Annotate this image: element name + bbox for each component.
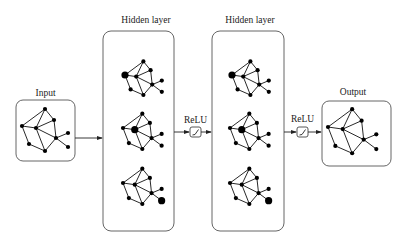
- graph-node: [228, 181, 232, 185]
- output-box: [322, 101, 391, 166]
- graph-node: [267, 79, 271, 83]
- graph-node: [140, 112, 144, 116]
- output-label: Output: [340, 87, 367, 97]
- graph-node: [54, 136, 58, 140]
- graph-node: [43, 149, 47, 153]
- graph-node: [256, 191, 260, 195]
- graph-node: [256, 136, 260, 140]
- graph-node: [27, 142, 31, 146]
- graph-node: [236, 87, 240, 91]
- graph-node: [326, 125, 330, 129]
- graph-node: [247, 112, 251, 116]
- graph-node: [148, 176, 152, 180]
- gnn-diagram: Input Hidden layer ReLU Hidden layer ReL…: [0, 0, 394, 242]
- graph-node: [127, 196, 131, 200]
- graph-node: [248, 59, 252, 63]
- graph-node: [52, 118, 56, 122]
- graph-node: [121, 181, 125, 185]
- graph-node: [149, 68, 153, 72]
- relu2-label: ReLU: [291, 114, 314, 124]
- graph-node: [257, 83, 261, 87]
- input-label: Input: [35, 88, 55, 98]
- graph-node: [148, 121, 152, 125]
- graph-node: [234, 196, 238, 200]
- graph-node: [333, 144, 337, 148]
- graph-node: [140, 167, 144, 171]
- graph-node: [247, 202, 251, 206]
- graph-node: [267, 187, 271, 191]
- graph-node: [160, 90, 164, 94]
- graph-node: [234, 141, 238, 145]
- graph-node: [247, 147, 251, 151]
- graph-node: [255, 121, 259, 125]
- graph-node: [66, 131, 70, 135]
- graph-node: [129, 87, 133, 91]
- graph-node: [256, 68, 260, 72]
- graph-node: [34, 126, 38, 130]
- graph-node: [20, 124, 24, 128]
- graph-node: [248, 93, 252, 97]
- graph-node: [150, 83, 154, 87]
- graph-node: [267, 144, 271, 148]
- graph-node: [374, 132, 378, 136]
- graph-node: [141, 93, 145, 97]
- graph-node-highlighted: [158, 197, 165, 204]
- graph-node: [140, 202, 144, 206]
- graph-node-highlighted: [238, 126, 245, 133]
- graph-node: [141, 59, 145, 63]
- graph-node: [267, 132, 271, 136]
- relu2-box: [297, 127, 308, 137]
- graph-node-highlighted: [121, 71, 128, 78]
- graph-node: [134, 75, 138, 79]
- graph-node: [127, 141, 131, 145]
- graph-node: [374, 147, 378, 151]
- graph-node: [240, 183, 244, 187]
- graph-node: [160, 187, 164, 191]
- graph-node: [160, 144, 164, 148]
- graph-node: [350, 151, 354, 155]
- graph-node-highlighted: [131, 126, 138, 133]
- graph-node: [228, 126, 232, 130]
- graph-node: [241, 75, 245, 79]
- graph-node: [160, 79, 164, 83]
- graph-node-highlighted: [228, 71, 235, 78]
- graph-node: [362, 138, 366, 142]
- graph-node: [66, 145, 70, 149]
- graph-node: [149, 191, 153, 195]
- graph-node: [341, 127, 345, 131]
- graph-node: [133, 183, 137, 187]
- graph-node: [43, 107, 47, 111]
- relu1-label: ReLU: [184, 115, 207, 125]
- hidden1-label: Hidden layer: [121, 15, 171, 25]
- graph-node: [149, 136, 153, 140]
- hidden2-label: Hidden layer: [225, 15, 275, 25]
- graph-node: [140, 147, 144, 151]
- graph-node: [255, 176, 259, 180]
- graph-node: [267, 90, 271, 94]
- relu1-box: [190, 127, 201, 137]
- graph-node-highlighted: [265, 197, 272, 204]
- graph-node: [247, 167, 251, 171]
- graph-node: [160, 132, 164, 136]
- graph-node: [121, 126, 125, 130]
- graph-node: [360, 119, 364, 123]
- graph-node: [350, 107, 354, 111]
